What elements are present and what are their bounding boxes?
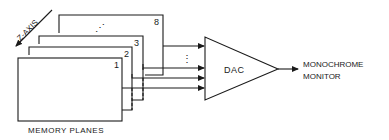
plane-2-label: 2 [124,49,129,59]
plane-3-output-line [143,64,204,72]
dac-label: DAC [224,65,245,75]
memory-planes-dac-diagram: Z-AXIS 8 ⋰ 3 2 1 MEMORY PLANES ⋮ DAC [0,0,389,140]
z-axis-label: Z-AXIS [15,18,40,43]
lines-ellipsis: ⋮ [182,53,192,64]
memory-plane-1 [18,58,122,121]
monitor-label-line2: MONITOR [303,72,341,81]
plane-1-label: 1 [114,60,119,70]
planes-ellipsis: ⋰ [95,22,105,33]
plane-1-output-line [122,88,204,110]
memory-planes-caption: MEMORY PLANES [28,126,104,135]
monitor-label-line1: MONOCHROME [303,60,363,69]
plane-3-label: 3 [134,38,139,48]
plane-8-label: 8 [154,17,159,27]
